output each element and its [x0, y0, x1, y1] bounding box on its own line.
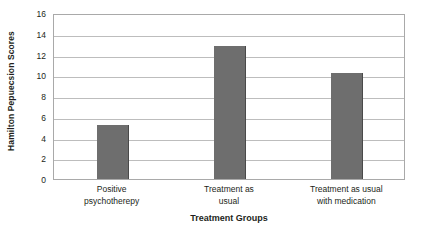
x-axis-tick-label: Treatment as usualwith medication [293, 184, 399, 207]
bar [214, 46, 246, 179]
bars-layer [54, 15, 404, 179]
y-axis-tick-labels: 0246810121416 [24, 14, 50, 180]
bar [331, 73, 363, 179]
bar [97, 125, 129, 179]
y-axis-title-text: Hamilton Pepuecsion Scores [6, 31, 16, 151]
bar-chart-figure: Hamilton Pepuecsion Scores 0246810121416… [0, 0, 425, 238]
x-axis-tick-label: Treatment asusual [176, 184, 282, 207]
y-axis-tick-label: 4 [41, 134, 46, 144]
y-axis-tick-label: 16 [37, 9, 46, 19]
y-axis-tick-label: 8 [41, 92, 46, 102]
y-axis-tick-label: 10 [37, 71, 46, 81]
y-axis-title: Hamilton Pepuecsion Scores [0, 0, 22, 182]
x-axis-tick-labels: PositivepsychotherepyTreatment asusualTr… [53, 184, 405, 214]
y-axis-tick-label: 14 [37, 30, 46, 40]
plot-area [53, 14, 405, 180]
x-axis-tick-label: Positivepsychotherepy [59, 184, 165, 207]
y-axis-tick-label: 6 [41, 113, 46, 123]
y-axis-tick-label: 12 [37, 51, 46, 61]
x-axis-title: Treatment Groups [53, 213, 405, 223]
y-axis-tick-label: 0 [41, 175, 46, 185]
y-axis-tick-label: 2 [41, 154, 46, 164]
